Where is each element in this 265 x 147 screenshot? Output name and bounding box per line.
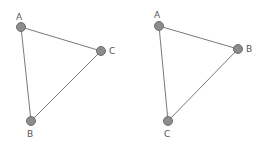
node-label-a: A [154, 10, 161, 20]
triangle-diagrams: ACBABC [0, 0, 265, 147]
node-label-b: B [246, 44, 252, 54]
right-triangle: ABC [154, 10, 252, 139]
edge-a-c [21, 27, 101, 51]
node-c [97, 47, 106, 56]
edge-a-b [159, 26, 238, 49]
edge-b-a [21, 27, 31, 121]
node-label-c: C [164, 129, 170, 139]
node-label-a: A [16, 12, 23, 22]
node-label-c: C [109, 46, 115, 56]
node-c [164, 117, 173, 126]
node-b [234, 45, 243, 54]
edge-c-a [159, 26, 168, 121]
node-a [17, 23, 26, 32]
edge-c-b [31, 51, 101, 121]
node-a [155, 22, 164, 31]
edge-b-c [168, 49, 238, 121]
left-triangle: ACB [16, 12, 115, 139]
node-label-b: B [27, 129, 33, 139]
node-b [27, 117, 36, 126]
